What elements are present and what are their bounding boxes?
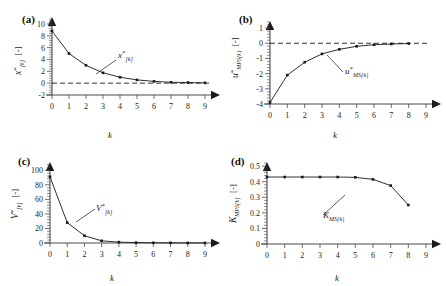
x-axis-arrow xyxy=(432,100,441,108)
x-tick-label: 6 xyxy=(372,111,376,120)
y-tick-label: 40 xyxy=(35,210,43,219)
panel-a-annotation-group: x*[k] xyxy=(117,49,133,63)
y-tick-label: -2 xyxy=(256,70,263,79)
panel-b-svg: (b) u*MPS{k} [-] 0123456789-4-3-2-101 k … xyxy=(223,0,446,143)
y-tick-label: -2 xyxy=(38,91,45,100)
data-point-marker xyxy=(266,176,269,179)
data-point-marker xyxy=(169,242,172,245)
y-tick-label: 60 xyxy=(35,195,43,204)
data-point-marker xyxy=(390,43,393,46)
x-tick-label: 5 xyxy=(135,102,139,111)
x-axis-arrow xyxy=(211,91,220,99)
y-tick-label: 0.2 xyxy=(250,209,260,218)
y-tick-label: 20 xyxy=(35,224,43,233)
x-tick-label: 0 xyxy=(50,102,54,111)
data-point-marker xyxy=(204,242,207,245)
x-tick-label: 8 xyxy=(406,251,410,260)
panel-c-svg: (c) V*[k] [-] 0123456789020406080100 k V… xyxy=(0,143,223,286)
panel-b-annotation-group: u*MS{k} xyxy=(345,65,369,79)
data-point-marker xyxy=(407,204,410,207)
data-point-marker xyxy=(204,82,207,85)
data-point-marker xyxy=(49,176,52,179)
x-tick-label: 8 xyxy=(407,111,411,120)
y-axis-arrow xyxy=(266,21,274,30)
y-tick-label: 0.3 xyxy=(250,193,260,202)
panel-d-svg: (d) KMPS{k} [-] 012345678900.10.20.30.40… xyxy=(223,143,446,286)
x-tick-label: 2 xyxy=(82,250,86,259)
x-tick-label: 9 xyxy=(203,250,207,259)
y-tick-label: -1 xyxy=(256,54,263,63)
panel-c-annotation-group: V*[k] xyxy=(96,202,113,216)
data-point-marker xyxy=(68,52,71,55)
x-tick-label: 0 xyxy=(268,111,272,120)
x-tick-label: 1 xyxy=(67,102,71,111)
x-tick-label: 7 xyxy=(169,250,173,259)
x-tick-label: 4 xyxy=(337,111,341,120)
data-curve xyxy=(270,44,409,103)
panel-b-annotation: u*MS{k} xyxy=(345,65,369,79)
x-axis-arrow xyxy=(211,239,220,247)
data-point-marker xyxy=(119,76,122,79)
x-tick-label: 7 xyxy=(169,102,173,111)
panel-b-ylabel: u*MPS{k} [-] xyxy=(229,37,243,78)
data-point-marker xyxy=(355,45,358,48)
chart-panel-d: (d) KMPS{k} [-] 012345678900.10.20.30.40… xyxy=(223,143,446,286)
x-tick-label: 9 xyxy=(203,102,207,111)
panel-d-ylabel: KMPS{k} [-] xyxy=(228,184,241,224)
data-point-marker xyxy=(338,48,341,51)
y-tick-label: 8 xyxy=(41,32,45,41)
panel-a-xlabel: k xyxy=(108,130,113,140)
x-tick-label: 9 xyxy=(424,251,428,260)
x-tick-label: 6 xyxy=(151,250,155,259)
x-tick-label: 7 xyxy=(389,111,393,120)
panel-a-label: (a) xyxy=(22,13,35,26)
y-tick-label: 0 xyxy=(256,240,260,249)
data-point-marker xyxy=(407,42,410,45)
data-point-marker xyxy=(85,64,88,67)
x-tick-label: 1 xyxy=(65,250,69,259)
x-tick-label: 8 xyxy=(186,102,190,111)
data-point-marker xyxy=(118,241,121,244)
x-tick-label: 3 xyxy=(318,251,322,260)
x-tick-label: 9 xyxy=(424,111,428,120)
data-point-marker xyxy=(100,240,103,243)
data-point-marker xyxy=(389,184,392,187)
data-point-marker xyxy=(269,101,272,104)
panel-b-xlabel: k xyxy=(333,130,338,140)
y-tick-label: 0.1 xyxy=(250,224,260,233)
y-tick-label: 80 xyxy=(35,181,43,190)
data-point-marker xyxy=(83,234,86,237)
x-tick-label: 5 xyxy=(134,250,138,259)
x-tick-label: 3 xyxy=(101,102,105,111)
y-tick-label: 6 xyxy=(41,44,45,53)
x-tick-label: 4 xyxy=(117,250,121,259)
x-tick-label: 2 xyxy=(300,251,304,260)
data-point-marker xyxy=(186,242,189,245)
y-tick-label: -3 xyxy=(256,85,263,94)
x-tick-label: 2 xyxy=(303,111,307,120)
data-point-marker xyxy=(336,176,339,179)
panel-d-annotation: KMS{k} xyxy=(322,210,345,223)
annotation-leader-line xyxy=(96,60,116,74)
data-curve xyxy=(50,177,205,243)
data-point-marker xyxy=(170,81,173,84)
panel-c-label: (c) xyxy=(18,155,31,168)
chart-panel-b: (b) u*MPS{k} [-] 0123456789-4-3-2-101 k … xyxy=(223,0,446,143)
y-tick-label: 2 xyxy=(41,67,45,76)
x-tick-label: 3 xyxy=(320,111,324,120)
data-point-marker xyxy=(102,71,105,74)
y-tick-label: 0.5 xyxy=(250,162,260,171)
panel-d-label: (d) xyxy=(231,155,245,168)
panel-d-plot-area: 012345678900.10.20.30.40.5 xyxy=(250,162,441,260)
x-tick-label: 0 xyxy=(48,250,52,259)
panel-a-svg: (a) x*[k] [-] 0123456789-20246810 k x*[k… xyxy=(0,0,223,143)
panel-d-ylabel-group: KMPS{k} [-] xyxy=(228,184,241,224)
annotation-leader-line xyxy=(327,55,343,72)
panel-a-plot-area: 0123456789-20246810 xyxy=(37,17,220,111)
data-point-marker xyxy=(51,30,54,33)
panel-c-xlabel: k xyxy=(110,273,115,283)
chart-panel-a: (a) x*[k] [-] 0123456789-20246810 k x*[k… xyxy=(0,0,223,143)
panel-b-ylabel-group: u*MPS{k} [-] xyxy=(229,37,243,78)
panel-c-ylabel-group: V*[k] [-] xyxy=(9,189,23,219)
panel-c-plot-area: 0123456789020406080100 xyxy=(31,162,220,259)
